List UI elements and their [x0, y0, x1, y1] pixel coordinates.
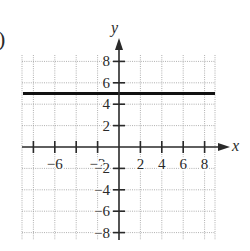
y-tick-label: 4: [103, 96, 111, 112]
y-tick-label: −8: [94, 225, 110, 241]
x-axis-label: x: [231, 137, 239, 154]
x-tick-label: 8: [201, 156, 209, 172]
coordinate-plane: −6−224688642−2−4−6−8 ) x y: [0, 0, 250, 251]
x-tick-label: 2: [137, 156, 145, 172]
part-label: ): [0, 26, 5, 51]
x-axis-arrow-icon: [218, 143, 230, 151]
y-tick-label: 8: [103, 53, 111, 69]
y-axis-arrow-icon: [115, 38, 123, 50]
y-tick-label: 6: [103, 75, 111, 91]
x-tick-label: 4: [158, 156, 166, 172]
x-tick-label: −6: [47, 156, 63, 172]
y-tick-label: −6: [94, 203, 110, 219]
x-tick-label: 6: [179, 156, 187, 172]
y-tick-label: −4: [94, 182, 110, 198]
y-tick-label: 2: [103, 118, 111, 134]
y-tick-label: −2: [94, 160, 110, 176]
axes: [22, 38, 230, 240]
y-axis-label: y: [109, 19, 119, 37]
